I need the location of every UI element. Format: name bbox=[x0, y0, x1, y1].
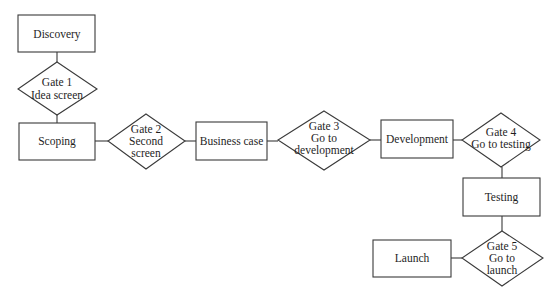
gate-5: Gate 5 Go to launch bbox=[462, 231, 543, 286]
gate-3: Gate 3 Go to development bbox=[278, 111, 370, 170]
stage-label: Discovery bbox=[33, 28, 81, 41]
gate-4: Gate 4 Go to testing bbox=[462, 113, 540, 167]
stage-label: Testing bbox=[485, 191, 519, 204]
stage-label: Business case bbox=[200, 135, 264, 147]
stage-scoping: Scoping bbox=[19, 123, 95, 160]
gate-title: Gate 1 bbox=[42, 76, 73, 88]
gate-subtitle: Idea screen bbox=[31, 89, 83, 101]
gate-subtitle: Go to bbox=[489, 252, 515, 264]
gate-subtitle: Go to bbox=[311, 132, 337, 144]
gate-title: Gate 3 bbox=[309, 120, 340, 132]
stage-label: Launch bbox=[395, 252, 430, 264]
gate-title: Gate 5 bbox=[487, 240, 518, 252]
stage-gate-diagram: Discovery Gate 1 Idea screen Scoping Gat… bbox=[0, 0, 557, 299]
stage-launch: Launch bbox=[373, 240, 451, 277]
gate-subtitle: Go to testing bbox=[471, 138, 531, 151]
gate-subtitle: screen bbox=[131, 147, 161, 159]
gate-subtitle: development bbox=[294, 144, 354, 157]
stage-label: Development bbox=[386, 133, 449, 146]
gate-title: Gate 4 bbox=[486, 126, 517, 138]
stage-business-case: Business case bbox=[196, 122, 267, 160]
gate-2: Gate 2 Second screen bbox=[108, 114, 185, 169]
stage-discovery: Discovery bbox=[18, 15, 95, 52]
stage-development: Development bbox=[381, 120, 453, 158]
stage-label: Scoping bbox=[38, 135, 76, 148]
gate-title: Gate 2 bbox=[131, 123, 162, 135]
stage-testing: Testing bbox=[463, 178, 540, 216]
gate-1: Gate 1 Idea screen bbox=[18, 62, 97, 115]
gate-subtitle: Second bbox=[129, 135, 163, 147]
gate-subtitle: launch bbox=[487, 264, 518, 276]
